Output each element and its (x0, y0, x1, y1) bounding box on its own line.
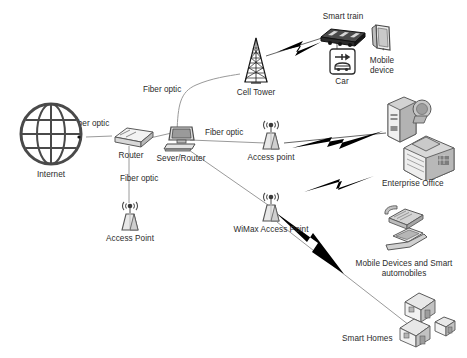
node-mobile-device-label: Mobile device (370, 56, 394, 76)
node-cell-tower-label: Cell Tower (237, 88, 276, 98)
node-wimax-access-point[interactable]: WiMax Access Point (249, 188, 293, 235)
access-point-icon (113, 197, 147, 233)
server-building-icon (382, 92, 462, 180)
bolt-access-point-enterprise-wireless (292, 131, 383, 149)
globe-icon (18, 101, 84, 167)
node-smart-homes-label: Smart Homes (342, 334, 393, 344)
wire-label-fiber-optic-router-tower: Fiber optic (143, 85, 181, 94)
tablet-icon (369, 22, 395, 54)
houses-icon (395, 288, 459, 350)
car-icon (329, 48, 356, 75)
node-mobile-devices-automobiles[interactable]: Mobile Devices and Smart automobiles (346, 204, 462, 279)
node-server-router[interactable]: Sever/Router (152, 125, 210, 164)
node-smart-train-label: Smart train (323, 12, 364, 22)
access-point-icon (254, 116, 288, 152)
node-access-point-1[interactable]: Access point (249, 116, 293, 163)
node-access-point-2-label: Access Point (106, 234, 154, 244)
node-router-label: Router (119, 151, 144, 161)
bolt-enterprise-office-wireless (304, 176, 374, 192)
node-server-router-label: Sever/Router (157, 154, 206, 164)
node-access-point-1-label: Access point (247, 153, 294, 163)
wire-label-fiber-optic-router-ap2: Fiber optic (120, 174, 158, 183)
wire-label-fiber-optic-server-ap: Fiber optic (205, 128, 243, 137)
node-mobile-devices-automobiles-label: Mobile Devices and Smart automobiles (346, 259, 462, 279)
node-enterprise-office[interactable]: Enterprise Office (382, 92, 464, 189)
node-internet-label: Internet (37, 170, 65, 180)
node-enterprise-office-label: Enterprise Office (382, 179, 444, 189)
desktop-computer-icon (161, 125, 201, 153)
node-car[interactable]: Car (324, 48, 360, 87)
node-access-point-2[interactable]: Access Point (108, 197, 152, 244)
node-mobile-device[interactable]: Mobile device (358, 22, 406, 76)
node-cell-tower[interactable]: Cell Tower (229, 36, 283, 98)
node-router[interactable]: Router (103, 124, 159, 161)
node-wimax-access-point-label: WiMax Access Point (233, 225, 308, 235)
node-car-label: Car (335, 77, 348, 87)
network-diagram-canvas: Fiber optic Fiber optic Fiber optic Fibe… (0, 0, 467, 358)
access-point-icon (254, 188, 288, 224)
phone-laptop-icon (375, 204, 433, 258)
router-box-icon (106, 124, 156, 150)
node-smart-homes[interactable]: Smart Homes (342, 288, 464, 350)
cell-tower-icon (234, 36, 278, 86)
node-internet[interactable]: Internet (14, 101, 88, 180)
